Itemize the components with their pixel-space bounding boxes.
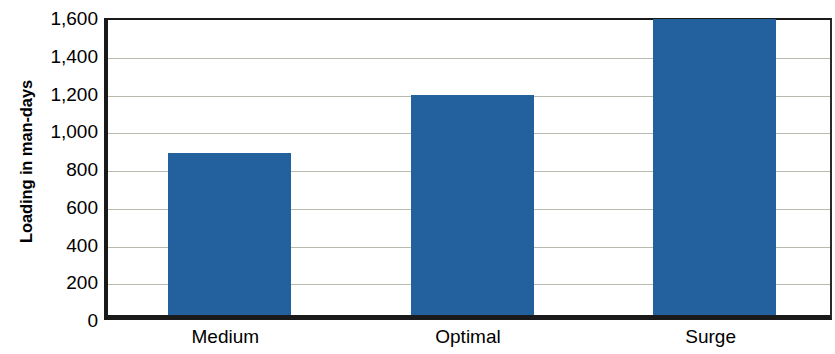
y-tick-label: 600 (32, 197, 98, 216)
x-tick-label-medium: Medium (192, 324, 260, 350)
x-tick-label-optimal: Optimal (435, 324, 500, 350)
bar-surge (653, 19, 776, 315)
plot-area (104, 18, 832, 320)
y-tick-label: 800 (32, 160, 98, 179)
y-axis-tick-labels: 02004006008001,0001,2001,4001,600 (32, 0, 98, 354)
x-axis-tick-labels: MediumOptimalSurge (104, 324, 832, 354)
bar-chart: Loading in man-days 02004006008001,0001,… (0, 0, 835, 354)
y-tick-label: 200 (32, 273, 98, 292)
y-tick-label: 1,400 (32, 46, 98, 65)
bar-medium (168, 153, 291, 315)
y-tick-label: 400 (32, 235, 98, 254)
bars (108, 20, 830, 315)
y-tick-label: 0 (32, 311, 98, 330)
x-tick-label-surge: Surge (685, 324, 736, 350)
y-tick-label: 1,000 (32, 122, 98, 141)
bar-optimal (411, 95, 534, 315)
y-tick-label: 1,600 (32, 9, 98, 28)
y-tick-label: 1,200 (32, 84, 98, 103)
